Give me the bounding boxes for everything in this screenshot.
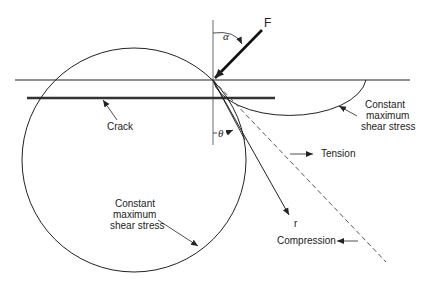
small-circle-label-2: maximum xyxy=(366,110,409,121)
theta-label: θ xyxy=(218,127,224,139)
theta-arrow xyxy=(226,130,233,133)
large-circle-label-3: shear stress xyxy=(110,220,164,231)
radius-arrow xyxy=(213,80,289,215)
large-shear-circle xyxy=(22,48,246,272)
alpha-label: α xyxy=(223,30,229,42)
small-circle-pointer xyxy=(339,106,357,116)
small-circle-label-3: shear stress xyxy=(361,121,415,132)
large-circle-label-2: maximum xyxy=(113,209,156,220)
force-label: F xyxy=(264,16,271,30)
compression-label: Compression xyxy=(277,235,336,246)
tension-label: Tension xyxy=(321,148,355,159)
small-circle-label-1: Constant xyxy=(365,99,405,110)
large-circle-pointer xyxy=(158,220,198,246)
diagram-canvas: F α r θ Crack Constant maximum shear str… xyxy=(0,0,425,285)
radius-label: r xyxy=(294,218,298,229)
crack-label: Crack xyxy=(107,121,134,132)
crack-pointer xyxy=(103,100,117,120)
large-circle-label-1: Constant xyxy=(115,198,155,209)
